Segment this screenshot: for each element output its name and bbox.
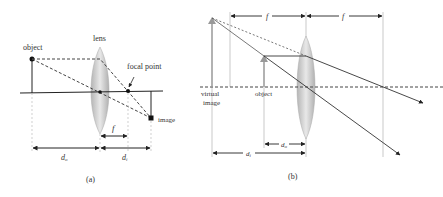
label-f-a: f (112, 123, 116, 133)
label-do-a: do (61, 153, 68, 162)
label-object-b: object (255, 90, 272, 98)
label-di-a: di (122, 153, 128, 162)
ray-parallel-b (264, 56, 423, 103)
focal-pointer-a (129, 77, 134, 87)
virtual-ray-2-b (212, 18, 264, 56)
focal-point-dot-a (126, 89, 130, 93)
label-image-a: image (158, 116, 175, 124)
label-lens-a: lens (93, 34, 106, 43)
label-focal-point-a: focal point (127, 62, 162, 71)
optics-diagram: object lens focal point image f do di (a… (0, 0, 443, 197)
lens-center-dot-a (98, 90, 102, 94)
image-dot-a (149, 116, 154, 121)
virtual-ray-1-b (212, 18, 306, 56)
label-image-b: image (203, 99, 220, 107)
panel-a: object lens focal point image f do di (a… (20, 34, 175, 184)
caption-a: (a) (86, 175, 95, 184)
panel-b: f f virtual image object do di (b) (200, 11, 443, 181)
label-virtual-b: virtual (201, 90, 219, 98)
caption-b: (b) (288, 172, 298, 181)
label-object-a: object (23, 43, 43, 52)
